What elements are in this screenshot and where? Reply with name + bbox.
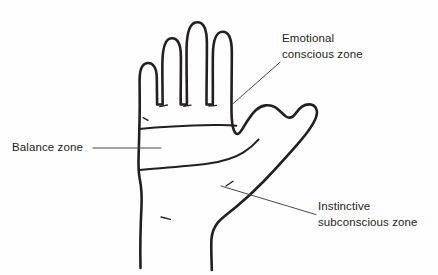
leader-line-instinctive: [221, 186, 316, 215]
label-instinctive-subconscious-zone: Instinctive subconscious zone: [318, 199, 418, 230]
label-balance-line-1: Balance zone: [12, 140, 83, 156]
hand-zones-illustration: [0, 0, 438, 275]
thumb-web-crease: [143, 118, 148, 121]
knuckle-crease-3: [209, 105, 217, 106]
figure-canvas: Emotional conscious zone Balance zone In…: [0, 0, 438, 275]
balance-band-top-line: [139, 125, 236, 129]
label-emotional-conscious-zone: Emotional conscious zone: [282, 31, 363, 62]
leader-lines-group: [93, 62, 316, 214]
label-balance-zone: Balance zone: [12, 140, 83, 156]
leader-line-emotional: [232, 62, 280, 104]
wrist-crease-mark: [161, 217, 170, 219]
label-instinctive-line-1: Instinctive: [318, 199, 418, 215]
balance-band-bottom-line: [139, 140, 259, 170]
palm-edge-crease: [226, 181, 233, 186]
label-instinctive-line-2: subconscious zone: [318, 215, 418, 231]
label-emotional-line-1: Emotional: [282, 31, 363, 47]
label-emotional-line-2: conscious zone: [282, 47, 363, 63]
